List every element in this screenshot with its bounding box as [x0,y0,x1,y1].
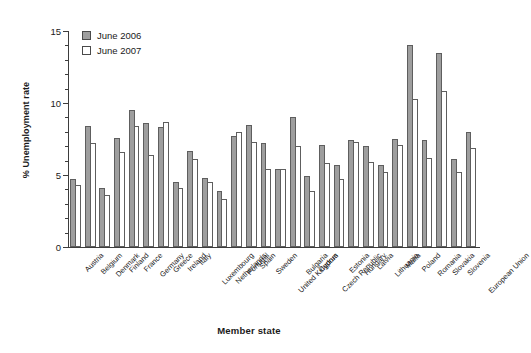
x-axis-line [68,247,480,248]
bar-group [304,31,316,247]
bar-group [451,31,463,247]
bar-june-2007 [163,122,169,247]
bar-june-2007 [251,142,257,247]
y-tick-major [63,247,68,248]
y-tick-label: 5 [56,170,61,181]
y-tick-minor [65,89,68,90]
y-tick-label: 15 [50,26,61,37]
legend-item-june-2006: June 2006 [82,29,141,41]
bar-june-2007 [295,146,301,247]
y-tick-minor [65,189,68,190]
y-tick-minor [65,60,68,61]
bar-group [378,31,390,247]
bar-june-2007 [192,159,198,247]
bar-june-2007 [309,191,315,247]
bar-group [422,31,434,247]
bar-june-2007 [119,152,125,247]
y-tick-minor [65,146,68,147]
bar-june-2007 [75,185,81,247]
bar-group [114,31,126,247]
bar-group [143,31,155,247]
y-axis-title-text: % Unemployment rate [21,82,31,178]
bar-group [187,31,199,247]
y-tick-minor [65,204,68,205]
bar-group [231,31,243,247]
y-tick-minor [65,117,68,118]
x-axis-category-label: Sweden [274,251,299,276]
bar-group [348,31,360,247]
bar-june-2007 [353,142,359,247]
y-tick-label: 0 [56,242,61,253]
legend-swatch-icon-2006 [82,31,91,40]
bar-group [85,31,97,247]
legend-label-2007: June 2007 [97,45,141,56]
bar-group [158,31,170,247]
legend-label-2006: June 2006 [97,30,141,41]
bar-june-2007 [280,169,286,247]
bar-june-2007 [207,182,213,247]
bar-group [99,31,111,247]
y-tick-minor [65,74,68,75]
bar-june-2007 [148,155,154,247]
y-tick-minor [65,233,68,234]
y-tick-major [63,31,68,32]
bar-june-2007 [470,148,476,247]
y-tick-label: 10 [50,98,61,109]
bar-group [70,31,82,247]
bar-series-container [69,31,480,247]
bar-june-2007 [221,199,227,247]
y-tick-minor [65,161,68,162]
bar-group [436,31,448,247]
bar-group [363,31,375,247]
bar-june-2007 [265,169,271,247]
y-tick-minor [65,218,68,219]
bar-june-2007 [90,143,96,247]
bar-group [392,31,404,247]
bar-group [202,31,214,247]
bar-june-2007 [397,145,403,247]
bar-group [261,31,273,247]
bar-group [407,31,419,247]
bar-group [173,31,185,247]
bar-group [129,31,141,247]
bar-june-2007 [324,163,330,247]
legend-swatch-icon-2007 [82,46,91,55]
bar-june-2007 [236,132,242,247]
x-axis-title: Member state [0,325,498,336]
bar-group [319,31,331,247]
bar-group [334,31,346,247]
bar-june-2007 [441,91,447,247]
bar-june-2007 [134,126,140,247]
bar-group [217,31,229,247]
bar-june-2007 [412,99,418,247]
chart-legend: June 2006 June 2007 [82,29,141,59]
y-tick-major [63,103,68,104]
y-tick-minor [65,132,68,133]
bar-group [246,31,258,247]
bar-june-2007 [368,162,374,247]
y-tick-minor [65,45,68,46]
bar-june-2007 [383,172,389,247]
bar-june-2007 [104,195,110,247]
bar-june-2007 [178,188,184,247]
legend-item-june-2007: June 2007 [82,44,141,56]
bar-june-2007 [339,179,345,247]
bar-june-2007 [426,158,432,247]
bar-group [275,31,287,247]
bar-june-2007 [456,172,462,247]
bar-group [466,31,478,247]
x-axis-category-label: European Union [487,251,531,295]
bar-group [290,31,302,247]
plot-area: 051015 [68,31,480,247]
y-tick-major [63,175,68,176]
y-axis-title: % Unemployment rate [14,0,38,260]
